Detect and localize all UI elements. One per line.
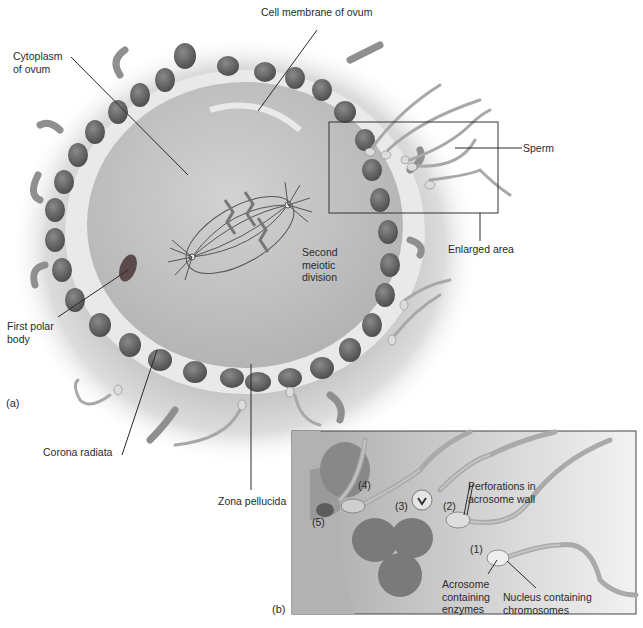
- label-cytoplasm: Cytoplasm of ovum: [13, 50, 63, 75]
- sperm-head-4: [341, 499, 365, 513]
- fertilization-diagram: Cell membrane of ovum Cytoplasm of ovum …: [0, 0, 643, 628]
- illustration: [0, 0, 643, 628]
- label-acrosome: Acrosome containing enzymes: [442, 578, 490, 616]
- label-cell-membrane: Cell membrane of ovum: [261, 6, 372, 19]
- sperm-head-3: [412, 490, 432, 510]
- ovum-cytoplasm: [87, 82, 403, 368]
- label-enlarged-area: Enlarged area: [448, 243, 514, 256]
- label-second-meiotic-division: Second meiotic division: [302, 246, 338, 284]
- label-sperm: Sperm: [523, 142, 554, 155]
- label-step-1: (1): [470, 543, 483, 556]
- label-perforations: Perforations in acrosome wall: [468, 480, 536, 505]
- label-step-5: (5): [312, 516, 325, 529]
- sperm-head-5: [316, 503, 334, 517]
- label-corona-radiata: Corona radiata: [43, 446, 112, 459]
- label-step-2: (2): [443, 500, 456, 513]
- panel-tag-a: (a): [6, 397, 19, 409]
- sperm-head-1: [487, 550, 509, 566]
- sperm-head-2: [446, 512, 470, 528]
- label-step-3: (3): [395, 500, 408, 513]
- label-zona-pellucida: Zona pellucida: [218, 495, 286, 508]
- label-first-polar-body: First polar body: [7, 320, 54, 345]
- label-nucleus: Nucleus containing chromosomes: [503, 591, 592, 616]
- panel-tag-b: (b): [272, 603, 285, 615]
- label-step-4: (4): [358, 479, 371, 492]
